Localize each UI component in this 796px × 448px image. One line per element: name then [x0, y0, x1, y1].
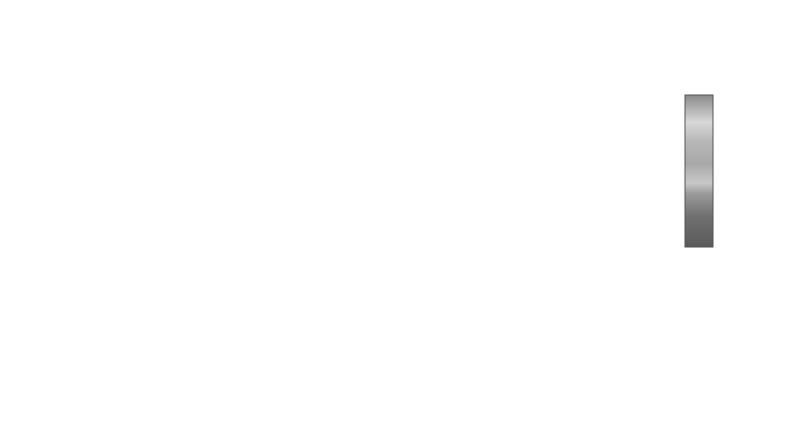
surface-plot: [0, 0, 796, 448]
colorbar: [685, 95, 713, 247]
